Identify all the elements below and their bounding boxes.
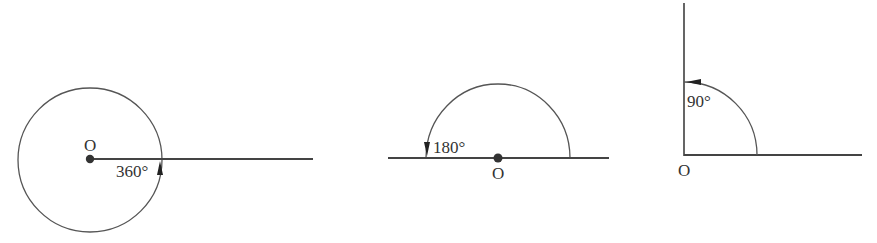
figure-straight-angle: 180° O [388,84,609,183]
vertex-point [86,155,94,163]
angle-label: 180° [433,138,465,157]
vertex-label: O [678,161,690,180]
angles-diagram: O 360° 180° O 90° O [0,0,877,243]
vertex-label: O [84,136,96,155]
figure-full-angle: O 360° [18,88,313,232]
angle-label: 90° [687,92,711,111]
angle-label: 360° [116,162,148,181]
vertex-label: O [492,164,504,183]
figure-right-angle: 90° O [678,3,862,180]
arrowhead-icon [686,79,701,85]
arrowhead-icon [424,142,430,156]
vertex-point [494,154,503,163]
